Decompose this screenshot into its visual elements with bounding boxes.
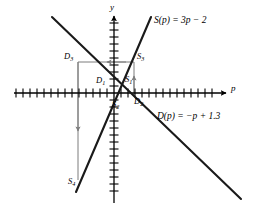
axes-group [14,16,226,203]
cobweb-diagram: y p S(p) = 3p − 2 D(p) = −p + 1.3 D1 S1 … [0,0,255,214]
curves-group [52,17,241,199]
point-label-d3: D3 [64,52,73,62]
point-label-d2-sub: 2 [140,101,143,107]
point-label-d3-sub: 3 [70,56,73,62]
point-label-s2-sub: 2 [116,104,119,110]
supply-equation-text: S(p) = 3p − 2 [154,15,206,25]
point-label-s2: S2 [112,100,119,110]
demand-line [52,17,241,199]
point-label-s1-sub: 1 [129,79,132,85]
supply-function-label: S(p) = 3p − 2 [154,16,206,26]
point-label-s3-sub: 3 [141,56,144,62]
point-label-s3: S3 [137,52,144,62]
point-label-s4-sub: 4 [72,181,75,187]
point-label-s1: S1 [125,75,132,85]
quantity-axis-label: y [110,3,114,12]
price-axis-label: p [231,84,236,93]
point-label-s4: S4 [68,177,75,187]
point-label-d1-sub: 1 [102,80,105,86]
demand-equation-text: D(p) = −p + 1.3 [157,111,220,121]
point-label-d1: D1 [96,76,105,86]
demand-function-label: D(p) = −p + 1.3 [157,112,220,122]
diagram-canvas [0,0,255,214]
point-label-d2: D2 [134,97,143,107]
